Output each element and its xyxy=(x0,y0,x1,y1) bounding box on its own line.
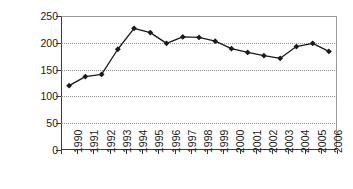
data-point-marker xyxy=(66,83,72,89)
data-point-marker xyxy=(212,38,218,44)
data-point-marker xyxy=(180,34,186,40)
data-point-marker xyxy=(310,40,316,46)
line-chart: 050100150200250 199019911992199319941995… xyxy=(0,0,353,189)
data-point-marker xyxy=(261,53,267,59)
data-point-marker xyxy=(326,48,332,54)
data-point-marker xyxy=(82,74,88,80)
data-point-marker xyxy=(229,46,235,52)
data-point-marker xyxy=(196,35,202,41)
data-point-marker xyxy=(245,50,251,56)
data-series xyxy=(0,0,353,189)
